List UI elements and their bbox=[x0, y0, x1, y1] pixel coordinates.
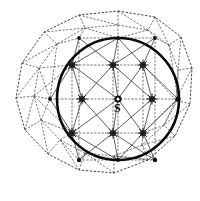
geometric-figure-canvas bbox=[0, 0, 200, 201]
lattice-node-dot bbox=[116, 158, 120, 162]
center-point-label: S bbox=[114, 102, 121, 114]
lattice-node-star bbox=[67, 60, 78, 71]
lattice-node-dot bbox=[116, 36, 120, 40]
lattice-node-dot bbox=[175, 96, 180, 101]
lattice-node-star bbox=[138, 60, 149, 71]
outer-hull-polygon bbox=[16, 11, 192, 173]
lattice-node-dot bbox=[153, 36, 157, 40]
lattice-node-star bbox=[77, 94, 88, 105]
figure-root: S bbox=[0, 0, 200, 201]
lattice-node-star bbox=[67, 128, 78, 139]
lattice-node-star bbox=[108, 128, 119, 139]
lattice-node-dot bbox=[77, 158, 81, 162]
lattice-horizontal-rows bbox=[50, 38, 178, 160]
lattice-node-star bbox=[108, 60, 119, 71]
lattice-node-star bbox=[147, 94, 158, 105]
lattice-node-dot bbox=[153, 158, 157, 162]
lattice-node-star bbox=[138, 128, 149, 139]
lattice-node-dot bbox=[77, 36, 81, 40]
lattice-node-dot bbox=[48, 97, 52, 101]
